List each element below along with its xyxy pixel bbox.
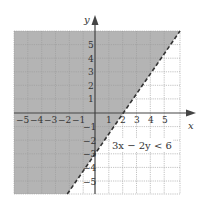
svg-text:1: 1 [88,94,94,104]
svg-text:3: 3 [134,115,140,125]
svg-text:−2: −2 [58,115,71,125]
inequality-graph: y x −5 −4 −3 −2 −1 1 2 3 4 5 5 4 3 2 1 −… [0,0,205,208]
svg-text:−5: −5 [83,177,97,187]
x-axis-label: x [188,120,194,131]
inequality-label: 3x − 2y < 6 [112,140,172,151]
svg-text:−3: −3 [44,115,58,125]
svg-text:5: 5 [162,115,168,125]
svg-text:−4: −4 [83,163,97,173]
svg-text:−2: −2 [83,136,96,146]
svg-text:4: 4 [88,54,94,64]
y-axis-label: y [83,14,90,25]
svg-text:−1: −1 [83,122,96,132]
y-axis-arrow-icon [92,15,99,25]
svg-text:2: 2 [120,115,126,125]
svg-text:−3: −3 [83,149,97,159]
x-axis-arrow-icon [186,110,196,117]
svg-text:2: 2 [88,81,94,91]
svg-text:4: 4 [148,115,154,125]
svg-text:5: 5 [88,40,94,50]
svg-text:1: 1 [106,115,112,125]
svg-text:−4: −4 [30,115,44,125]
svg-text:3: 3 [88,67,94,77]
svg-text:−5: −5 [16,115,30,125]
